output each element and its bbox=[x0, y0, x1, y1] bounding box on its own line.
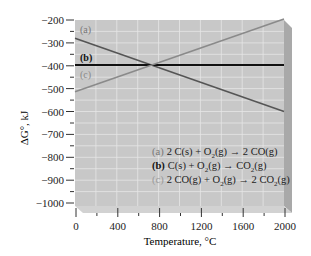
svg-text:0: 0 bbox=[73, 220, 79, 232]
svg-text:−500: −500 bbox=[41, 83, 64, 95]
svg-text:−900: −900 bbox=[41, 174, 64, 186]
chart: (a) (b) (c) −200 −300 −400 −500 −600 −70… bbox=[0, 0, 311, 256]
y-axis-title: ΔG°, kJ bbox=[18, 110, 30, 145]
svg-text:2000: 2000 bbox=[274, 220, 297, 232]
line-label-c: (c) bbox=[80, 69, 91, 81]
svg-text:1600: 1600 bbox=[232, 220, 255, 232]
svg-text:−600: −600 bbox=[41, 106, 64, 118]
svg-text:−1000: −1000 bbox=[36, 197, 65, 209]
svg-text:400: 400 bbox=[110, 220, 127, 232]
x-axis-title: Temperature, °C bbox=[144, 235, 217, 247]
line-label-b: (b) bbox=[80, 52, 92, 64]
svg-text:800: 800 bbox=[151, 220, 168, 232]
y-tick-labels: −200 −300 −400 −500 −600 −700 −800 −900 … bbox=[36, 14, 65, 209]
line-label-a: (a) bbox=[80, 24, 91, 36]
y-axis-ticks bbox=[66, 20, 74, 203]
plot-depth-bottom bbox=[75, 206, 292, 213]
svg-text:−300: −300 bbox=[41, 37, 64, 49]
svg-text:−400: −400 bbox=[41, 60, 64, 72]
x-tick-labels: 0 400 800 1200 1600 2000 bbox=[73, 220, 296, 232]
svg-text:−700: −700 bbox=[41, 128, 64, 140]
svg-text:−800: −800 bbox=[41, 151, 64, 163]
svg-text:1200: 1200 bbox=[190, 220, 213, 232]
svg-text:−200: −200 bbox=[41, 14, 64, 26]
